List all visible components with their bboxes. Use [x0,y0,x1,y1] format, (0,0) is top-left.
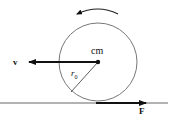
radius-subscript: 0 [75,74,78,80]
center-of-mass-dot [96,60,100,64]
rotation-arrow-icon [77,9,118,14]
force-label: F [139,107,145,116]
diagram-canvas [0,0,175,123]
velocity-label: v [13,58,18,67]
radius-label: r0 [71,69,78,80]
center-of-mass-label: cm [91,46,103,56]
